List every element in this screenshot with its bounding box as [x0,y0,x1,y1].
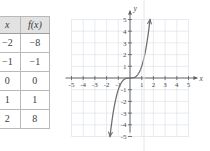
cell-fx: 8 [20,110,49,129]
cell-x: 0 [0,72,20,91]
table-row: −2 −8 [0,34,50,53]
x-tick-label: -3 [92,81,98,89]
y-tick-label: -1 [121,86,127,94]
cell-fx: 1 [20,91,49,110]
column-header-fx: f(x) [20,17,49,34]
x-axis-label: x [199,74,204,83]
table-row: 1 1 [0,91,50,110]
x-tick-label: 3 [163,81,167,89]
table-row: 0 0 [0,72,50,91]
x-tick-label: -5 [69,81,75,89]
cell-x: 1 [0,91,20,110]
cell-fx: −8 [20,34,49,53]
graph-svg: -5-4-3-2-11234554321-1-2-3-4-5 xy [58,0,210,151]
y-tick-label: -5 [121,133,127,141]
table-body: −2 −8 −1 −1 0 0 1 1 2 8 [0,34,50,129]
x-tick-label: 2 [152,81,156,89]
y-axis-label: y [133,4,138,13]
x-axis-arrow [194,76,198,80]
y-tick-label: 1 [123,63,127,71]
cell-x: 2 [0,110,20,129]
column-header-x: x [0,17,20,34]
table-row: −1 −1 [0,53,50,72]
y-tick-label: 4 [123,28,127,36]
cell-x: −1 [0,53,20,72]
page-edge-rule [142,0,152,151]
y-tick-label: -2 [121,98,127,106]
cubic-graph: -5-4-3-2-11234554321-1-2-3-4-5 xy [58,0,210,151]
x-tick-label: -2 [104,81,110,89]
y-tick-label: 5 [123,16,127,24]
table-row: 2 8 [0,110,50,129]
cell-x: −2 [0,34,20,53]
y-tick-label: -4 [121,121,127,129]
x-tick-label: 5 [187,81,191,89]
cell-fx: 0 [20,72,49,91]
cell-fx: −1 [20,53,49,72]
y-tick-label: 2 [123,51,127,59]
table-header: x f(x) [0,17,50,34]
y-axis-arrow [128,11,132,15]
table-header-row: x f(x) [0,17,50,34]
math-figure: x f(x) −2 −8 −1 −1 0 0 1 1 2 8 [0,0,210,151]
value-table: x f(x) −2 −8 −1 −1 0 0 1 1 2 8 [0,16,50,129]
x-tick-label: 4 [175,81,179,89]
x-tick-label: -4 [80,81,86,89]
y-tick-label: 3 [123,40,127,48]
axes [66,11,198,133]
y-tick-label: -3 [121,110,127,118]
